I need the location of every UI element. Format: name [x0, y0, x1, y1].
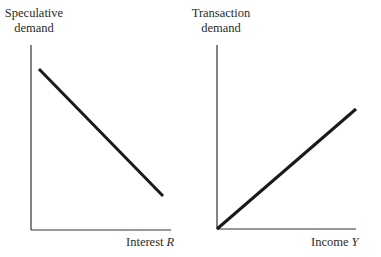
speculative-demand-chart: Speculative demand Interest R	[0, 0, 190, 257]
transaction-demand-chart: Transaction demand Income Y	[190, 0, 381, 257]
plot-area	[0, 0, 190, 257]
x-axis-label: Income Y	[311, 235, 359, 250]
transaction-demand-line	[217, 109, 356, 229]
speculative-demand-line	[39, 69, 163, 196]
x-axis-variable: Y	[352, 235, 359, 249]
x-axis-label-text: Income	[311, 235, 352, 249]
x-axis-variable: R	[167, 235, 175, 249]
x-axis-label-text: Interest	[126, 235, 167, 249]
x-axis-label: Interest R	[126, 235, 174, 250]
plot-area	[190, 0, 381, 257]
